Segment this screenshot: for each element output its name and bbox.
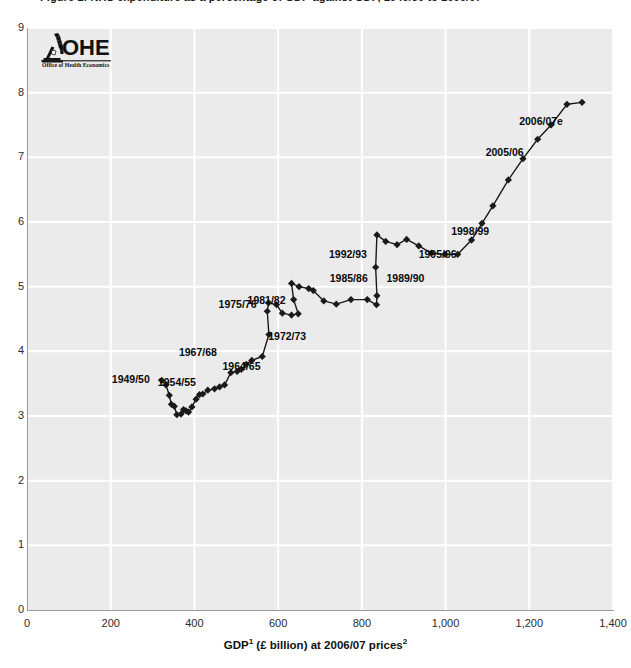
data-point-marker — [290, 296, 297, 303]
data-point-label: 1967/68 — [179, 347, 217, 358]
data-point-marker — [264, 308, 271, 315]
data-point-marker — [347, 296, 354, 303]
data-point-marker — [373, 301, 380, 308]
data-point-label: 1972/73 — [268, 331, 306, 342]
data-point-label: 1964/65 — [223, 361, 261, 372]
chart-figure: Figure 1: NHS expenditure as a percentag… — [0, 0, 631, 668]
y-axis-tick-label: 8 — [2, 87, 24, 98]
data-point-label: 1998/99 — [451, 226, 489, 237]
y-axis-line — [27, 28, 28, 611]
x-axis-tick-label: 1,200 — [516, 617, 544, 629]
data-point-label: 1981/82 — [248, 295, 286, 306]
x-axis-tick-label: 800 — [353, 617, 371, 629]
y-axis-tick-label: 6 — [2, 216, 24, 227]
data-point-marker — [578, 99, 585, 106]
data-point-marker — [373, 292, 380, 299]
ohe-strapline: Office of Health Economics — [42, 62, 110, 68]
data-point-label: 2006/07e — [519, 116, 563, 127]
y-axis-tick-label: 4 — [2, 345, 24, 356]
ohe-microscope-mark — [42, 33, 64, 63]
data-point-marker — [295, 310, 302, 317]
x-axis-tick-label: 600 — [269, 617, 287, 629]
y-axis-tick-label: 0 — [2, 604, 24, 615]
x-axis-title-mid: (£ billion) at 2006/07 prices — [253, 639, 403, 651]
x-axis-title: GDP1 (£ billion) at 2006/07 prices2 — [0, 639, 631, 651]
data-point-label: 1992/93 — [329, 249, 367, 260]
ohe-wordmark: OHE — [62, 35, 110, 60]
y-axis-ticks: 0123456789 — [0, 0, 24, 668]
y-axis-tick-label: 2 — [2, 475, 24, 486]
x-axis-tick-label: 0 — [24, 617, 30, 629]
x-axis-tick-label: 400 — [185, 617, 203, 629]
y-axis-tick-label: 7 — [2, 151, 24, 162]
x-axis-line — [27, 610, 614, 611]
data-point-marker — [295, 283, 302, 290]
ohe-logo-svg: OHE Office of Health Economics — [30, 30, 122, 72]
data-point-label: 1985/86 — [330, 273, 368, 284]
x-axis-tick-label: 1,000 — [432, 617, 460, 629]
x-axis-title-pre: GDP — [224, 639, 249, 651]
x-axis-tick-label: 1,400 — [599, 617, 627, 629]
data-point-marker — [489, 202, 496, 209]
data-point-label: 1954/55 — [158, 377, 196, 388]
data-point-label: 1949/50 — [112, 374, 150, 385]
ohe-logo: OHE Office of Health Economics — [30, 30, 122, 72]
data-point-marker — [393, 241, 400, 248]
x-axis-tick-label: 200 — [102, 617, 120, 629]
data-point-marker — [403, 236, 410, 243]
data-point-marker — [288, 312, 295, 319]
y-axis-tick-label: 5 — [2, 281, 24, 292]
figure-title: Figure 1: NHS expenditure as a percentag… — [40, 0, 482, 3]
data-point-marker — [364, 296, 371, 303]
ohe-rule — [41, 60, 111, 61]
data-point-label: 1995/96 — [419, 249, 457, 260]
data-point-marker — [333, 301, 340, 308]
data-point-label: 2005/06 — [486, 147, 524, 158]
y-axis-tick-label: 9 — [2, 22, 24, 33]
y-axis-tick-label: 1 — [2, 539, 24, 550]
data-point-marker — [372, 264, 379, 271]
x-axis-title-footnote-2: 2 — [403, 637, 407, 646]
data-point-label: 1989/90 — [387, 273, 425, 284]
y-axis-tick-label: 3 — [2, 410, 24, 421]
data-point-marker — [166, 392, 173, 399]
